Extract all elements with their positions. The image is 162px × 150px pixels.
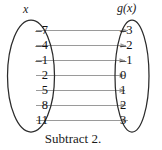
domain-value: –7 (6, 23, 48, 38)
mapping-arrow-3 (36, 58, 125, 63)
domain-header: x (23, 3, 28, 15)
diagram-caption: Subtract 2. (0, 132, 162, 146)
domain-value: –1 (6, 53, 48, 68)
range-value: 1 (120, 83, 146, 98)
domain-value: 11 (6, 113, 48, 128)
mapping-arrow-2 (36, 43, 126, 48)
range-value-list: –3 –2 –1 0 1 2 3 (120, 23, 146, 128)
range-value: 3 (120, 113, 146, 128)
range-value: –3 (120, 23, 146, 38)
mapping-diagram: x g(x) –7 –4 –1 2 5 8 11 –3 –2 –1 0 1 2 … (0, 0, 162, 150)
range-value: –2 (120, 38, 146, 53)
mapping-arrow-7 (36, 118, 128, 123)
range-header: g(x) (117, 2, 136, 14)
domain-value: 8 (6, 98, 48, 113)
domain-value: –4 (6, 38, 48, 53)
range-value: 2 (120, 98, 146, 113)
mapping-arrow-6 (36, 103, 126, 108)
mapping-arrow-1 (36, 28, 128, 33)
mapping-arrow-4 (36, 73, 125, 78)
range-value: 0 (120, 68, 146, 83)
domain-value: 5 (6, 83, 48, 98)
domain-value-list: –7 –4 –1 2 5 8 11 (6, 23, 48, 128)
range-value: –1 (120, 53, 146, 68)
domain-value: 2 (6, 68, 48, 83)
mapping-arrow-5 (36, 88, 125, 93)
